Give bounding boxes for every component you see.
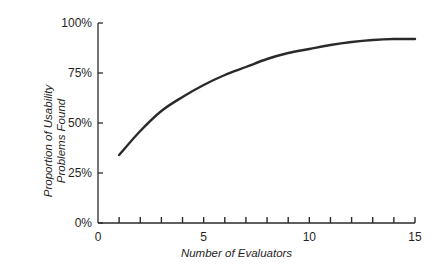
data-series <box>119 39 415 155</box>
y-axis-title-line: Problems Found <box>55 98 67 183</box>
y-tick-label: 25% <box>68 166 92 180</box>
y-axis-title: Proportion of UsabilityProblems Found <box>42 84 67 198</box>
x-axis-title: Number of Evaluators <box>181 247 292 259</box>
x-tick-label: 5 <box>200 230 207 244</box>
y-tick-label: 75% <box>68 66 92 80</box>
y-axis: 0%25%50%75%100% <box>61 16 103 230</box>
usability-chart: 0%25%50%75%100% 051015 Number of Evaluat… <box>0 0 446 272</box>
x-tick-label: 15 <box>408 230 422 244</box>
x-axis: 051015 <box>95 217 422 244</box>
x-tick-label: 10 <box>303 230 317 244</box>
series-curve <box>119 39 415 155</box>
y-tick-label: 50% <box>68 116 92 130</box>
y-tick-label: 100% <box>61 16 92 30</box>
y-tick-label: 0% <box>75 216 93 230</box>
x-tick-label: 0 <box>95 230 102 244</box>
y-axis-title-line: Proportion of Usability <box>42 84 54 198</box>
